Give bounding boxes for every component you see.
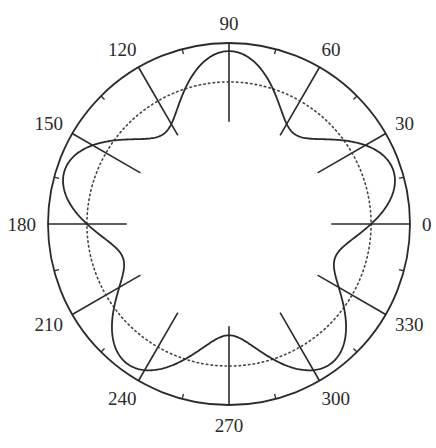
angle-label-60: 60	[322, 39, 341, 60]
polar-chart: 0306090120150180210240270300330	[0, 0, 436, 448]
angle-label-270: 270	[215, 415, 244, 436]
spoke-120	[139, 67, 178, 135]
angle-label-180: 180	[8, 214, 37, 235]
reference-dotted-circle	[87, 82, 371, 366]
angle-label-150: 150	[34, 113, 63, 134]
angle-label-300: 300	[322, 388, 351, 409]
angle-label-90: 90	[220, 13, 239, 34]
angle-label-30: 30	[395, 113, 414, 134]
polar-plot-svg: 0306090120150180210240270300330	[0, 0, 436, 448]
angle-label-0: 0	[422, 214, 432, 235]
angle-label-210: 210	[34, 314, 63, 335]
spoke-330	[318, 275, 386, 314]
angle-label-330: 330	[395, 314, 424, 335]
angle-label-120: 120	[108, 39, 137, 60]
angle-label-240: 240	[108, 388, 137, 409]
